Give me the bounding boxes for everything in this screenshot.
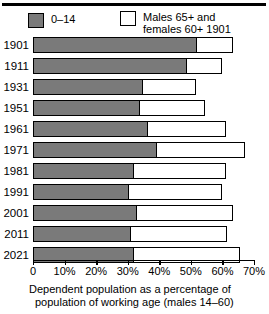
stacked-bar — [33, 37, 233, 53]
bar-row: 2001 — [0, 205, 269, 221]
stacked-bar — [33, 79, 196, 95]
stacked-bar — [33, 205, 233, 221]
bar-row: 2011 — [0, 226, 269, 242]
chart-legend: 0–14 Males 65+ and females 60+ 1901 — [28, 11, 266, 35]
bar-segment-elderly — [196, 37, 234, 53]
bar-segment-children — [33, 226, 131, 242]
legend-label-children: 0–14 — [51, 13, 75, 26]
bar-segment-children — [33, 184, 129, 200]
y-axis-year-label: 1901 — [0, 38, 29, 52]
bar-row: 1991 — [0, 184, 269, 200]
legend-entry-children: 0–14 — [28, 13, 75, 28]
bar-segment-elderly — [139, 100, 205, 116]
caption-line-1: Dependent population as a percentage of — [29, 283, 265, 296]
legend-swatch-children — [28, 13, 44, 28]
y-axis-year-label: 2011 — [0, 227, 29, 241]
stacked-bar — [33, 226, 227, 242]
y-axis-year-label: 1981 — [0, 164, 29, 178]
bar-segment-elderly — [142, 79, 195, 95]
stacked-bar — [33, 184, 222, 200]
stacked-bar — [33, 142, 245, 158]
top-divider-rule — [2, 3, 266, 6]
bar-row: 1931 — [0, 79, 269, 95]
bar-segment-children — [33, 100, 140, 116]
bar-row: 1911 — [0, 58, 269, 74]
bar-segment-children — [33, 121, 148, 137]
bar-segment-elderly — [128, 184, 222, 200]
bar-segment-children — [33, 205, 137, 221]
y-axis-year-label: 1911 — [0, 59, 29, 73]
bar-row: 1981 — [0, 163, 269, 179]
bar-row: 1951 — [0, 100, 269, 116]
x-axis-tick-label: 70% — [234, 265, 269, 278]
x-axis: 010%20%30%40%50%60%70% — [0, 260, 269, 278]
y-axis-year-label: 2001 — [0, 206, 29, 220]
bar-row: 1901 — [0, 37, 269, 53]
bar-segment-elderly — [186, 58, 222, 74]
y-axis-year-label: 1991 — [0, 185, 29, 199]
bar-segment-elderly — [136, 205, 234, 221]
legend-label-elderly: Males 65+ and females 60+ 1901 — [143, 11, 231, 35]
bar-segment-elderly — [156, 142, 244, 158]
legend-swatch-elderly — [120, 11, 136, 26]
y-axis-year-label: 1931 — [0, 80, 29, 94]
bar-row: 1961 — [0, 121, 269, 137]
bar-segment-elderly — [147, 121, 226, 137]
bar-segment-children — [33, 58, 188, 74]
caption-line-2: population of working age (males 14–60) — [29, 296, 265, 309]
stacked-bar — [33, 163, 226, 179]
stacked-bar — [33, 58, 222, 74]
chart-plot-area: 1901191119311951196119711981199120012011… — [0, 36, 269, 260]
stacked-bar — [33, 100, 205, 116]
bar-row: 1971 — [0, 142, 269, 158]
y-axis-year-label: 1971 — [0, 143, 29, 157]
bar-segment-children — [33, 142, 158, 158]
bar-segment-children — [33, 163, 134, 179]
x-axis-line — [33, 260, 254, 261]
legend-entry-elderly: Males 65+ and females 60+ 1901 — [120, 11, 231, 35]
bar-segment-children — [33, 37, 197, 53]
bar-segment-elderly — [133, 163, 226, 179]
bar-segment-elderly — [130, 226, 228, 242]
chart-caption: Dependent population as a percentage of … — [29, 283, 265, 308]
y-axis-year-label: 1951 — [0, 101, 29, 115]
y-axis-year-label: 1961 — [0, 122, 29, 136]
bar-segment-children — [33, 79, 144, 95]
stacked-bar — [33, 121, 226, 137]
